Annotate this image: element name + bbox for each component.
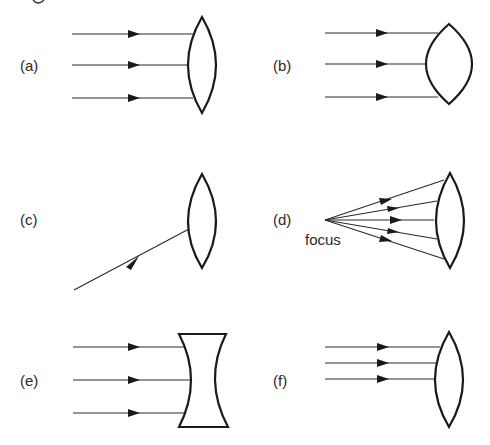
panel-label-e: (e) xyxy=(20,372,38,389)
arrow-icon xyxy=(387,206,399,212)
arrow-icon xyxy=(128,30,140,38)
oblique-ray-c xyxy=(74,229,189,290)
arrow-icon xyxy=(128,409,140,417)
panel-c: (c) xyxy=(20,174,216,290)
parallel-rays-e xyxy=(73,343,191,417)
biconvex-lens-a xyxy=(188,17,216,113)
parallel-rays-a xyxy=(72,30,193,102)
arrow-icon xyxy=(377,343,389,351)
thick-biconvex-lens-b xyxy=(426,24,472,104)
parallel-rays-f xyxy=(325,343,440,383)
panel-label-a: (a) xyxy=(20,57,38,74)
arrow-icon xyxy=(379,235,392,242)
diverging-rays-d xyxy=(325,180,444,259)
arrow-icon xyxy=(128,376,140,384)
focus-annotation: focus xyxy=(305,231,341,248)
arrow-icon xyxy=(390,216,402,224)
panel-d: (d) focus xyxy=(273,173,464,268)
arrow-icon xyxy=(377,359,389,367)
arrow-icon xyxy=(376,60,388,68)
panel-label-b: (b) xyxy=(273,57,291,74)
panel-a: (a) xyxy=(20,17,216,113)
arrow-icon xyxy=(376,29,388,37)
arrow-icon xyxy=(377,375,389,383)
arrow-icon xyxy=(128,61,140,69)
panel-f: (f) xyxy=(273,332,463,427)
cropped-heading-fragment xyxy=(33,0,44,3)
arrow-icon xyxy=(387,228,399,234)
arrow-icon xyxy=(376,93,388,101)
panel-e: (e) xyxy=(20,334,228,427)
arrow-icon xyxy=(379,198,392,205)
biconvex-lens-f xyxy=(435,332,463,427)
arrow-icon xyxy=(126,256,139,270)
biconvex-lens-c xyxy=(188,174,216,268)
panel-b: (b) xyxy=(273,24,472,104)
panel-label-f: (f) xyxy=(273,372,287,389)
panel-label-d: (d) xyxy=(273,211,291,228)
lens-ray-diagram: (a) (b) (c) (d) focus xyxy=(0,0,490,445)
biconvex-lens-d xyxy=(436,173,464,268)
parallel-rays-b xyxy=(325,29,438,101)
arrow-icon xyxy=(128,343,140,351)
panel-label-c: (c) xyxy=(20,211,38,228)
arrow-icon xyxy=(128,94,140,102)
